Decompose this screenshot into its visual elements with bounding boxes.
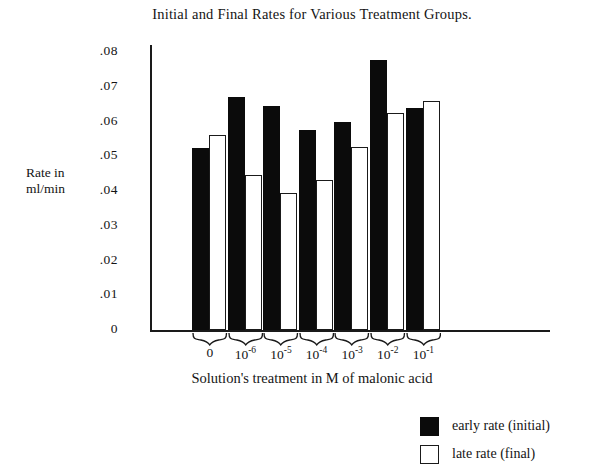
bar-early-rate [228, 97, 245, 330]
legend-swatch-light-icon [420, 445, 439, 464]
bar-early-rate [334, 122, 351, 330]
bar-series-group [150, 45, 450, 330]
y-tick-label: .08 [72, 43, 118, 59]
x-tick-brace-icon [299, 332, 335, 345]
bar-early-rate [299, 130, 316, 330]
bar-early-rate [370, 60, 387, 330]
legend-item-late: late rate (final) [420, 440, 550, 467]
y-tick-label: .01 [72, 286, 118, 302]
x-tick-label: 10-1 [398, 345, 450, 363]
y-tick-label: .06 [72, 113, 118, 129]
bar-late-rate [423, 101, 440, 330]
y-tick-label: 0 [72, 321, 118, 337]
legend-label-early: early rate (initial) [452, 418, 550, 434]
chart-legend: early rate (initial) late rate (final) [420, 412, 550, 467]
legend-label-late: late rate (final) [452, 446, 535, 462]
x-axis-title: Solution's treatment in M of malonic aci… [0, 370, 598, 387]
bar-late-rate [387, 113, 404, 330]
y-tick-label: .07 [72, 78, 118, 94]
y-tick-label: .04 [72, 182, 118, 198]
bar-late-rate [209, 135, 226, 330]
legend-swatch-dark-icon [420, 417, 439, 436]
y-tick-label: .03 [72, 217, 118, 233]
x-tick-brace-icon [192, 332, 228, 345]
bar-early-rate [192, 148, 209, 330]
legend-item-early: early rate (initial) [420, 412, 550, 440]
bar-early-rate [263, 106, 280, 330]
x-tick-brace-icon [228, 332, 264, 345]
bar-late-rate [316, 180, 333, 330]
x-axis-title-text: Solution's treatment in M of malonic aci… [191, 370, 432, 386]
chart-container: Initial and Final Rates for Various Trea… [0, 0, 598, 467]
bar-late-rate [245, 175, 262, 330]
x-tick-brace-icon [406, 332, 442, 345]
chart-title: Initial and Final Rates for Various Trea… [0, 6, 598, 23]
x-tick-brace-icon [334, 332, 370, 345]
y-tick-label: .02 [72, 252, 118, 268]
y-axis-title-line1: Rate in [26, 165, 118, 181]
bar-early-rate [406, 108, 423, 330]
bar-late-rate [351, 147, 368, 330]
y-tick-label: .05 [72, 147, 118, 163]
bar-late-rate [280, 193, 297, 330]
x-tick-brace-icon [263, 332, 299, 345]
x-tick-brace-icon [370, 332, 406, 345]
